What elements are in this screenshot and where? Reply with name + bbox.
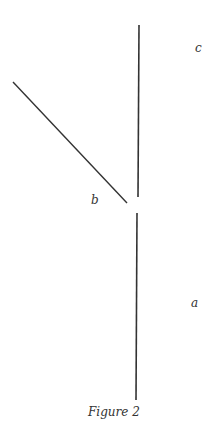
line-a-lower-vertical (136, 213, 137, 400)
line-b-diagonal (13, 82, 127, 203)
label-a: a (191, 296, 198, 310)
line-c-upper-vertical (138, 25, 139, 197)
label-c: c (195, 41, 202, 55)
figure-caption: Figure 2 (88, 405, 140, 419)
figure-diagram (0, 0, 216, 441)
label-b: b (91, 193, 99, 207)
